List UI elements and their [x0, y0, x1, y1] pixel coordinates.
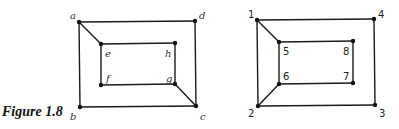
vertex-4 — [372, 17, 376, 21]
vertex-label-6: 6 — [283, 71, 289, 82]
vertex-c — [194, 104, 198, 108]
edge-1-5 — [257, 20, 279, 42]
vertex-7 — [351, 81, 355, 85]
edge-g-f — [101, 84, 175, 85]
vertex-a — [77, 20, 81, 24]
vertex-label-d: d — [199, 10, 205, 21]
vertex-label-a: a — [70, 10, 76, 21]
vertex-label-2: 2 — [248, 108, 254, 119]
vertex-label-4: 4 — [378, 9, 384, 20]
vertex-5 — [277, 40, 281, 44]
vertex-label-h: h — [165, 48, 171, 59]
edge-g-c — [175, 84, 196, 106]
vertex-label-f: f — [105, 73, 112, 84]
edge-d-c — [195, 21, 196, 106]
figure-caption: Figure 1.8 — [2, 104, 63, 120]
vertex-label-7: 7 — [343, 71, 349, 82]
vertex-8 — [351, 39, 355, 43]
vertex-label-1: 1 — [248, 9, 254, 20]
edge-2-1 — [257, 20, 258, 106]
vertex-label-e: e — [105, 48, 111, 59]
vertex-label-g: g — [166, 73, 172, 84]
edge-e-h — [101, 43, 175, 44]
edge-5-8 — [279, 41, 353, 42]
vertex-label-b: b — [70, 111, 76, 122]
vertex-b — [78, 105, 82, 109]
vertex-6 — [277, 82, 281, 86]
letter-graph: adehfgbc — [70, 10, 206, 122]
vertex-h — [173, 41, 177, 45]
edge-1-4 — [257, 19, 374, 20]
vertex-label-8: 8 — [343, 46, 349, 57]
vertex-g — [173, 82, 177, 86]
vertex-label-c: c — [200, 111, 206, 122]
edge-a-d — [79, 21, 195, 22]
edge-b-a — [79, 22, 80, 107]
vertex-label-3: 3 — [379, 108, 385, 119]
vertex-e — [99, 42, 103, 46]
vertex-2 — [256, 104, 260, 108]
vertex-label-5: 5 — [283, 46, 289, 57]
edge-4-3 — [374, 19, 375, 105]
vertex-f — [99, 83, 103, 87]
edge-6-2 — [258, 84, 279, 106]
edge-7-6 — [279, 83, 353, 84]
edge-c-b — [80, 106, 196, 107]
vertex-3 — [373, 103, 377, 107]
vertex-1 — [255, 18, 259, 22]
number-graph: 14586723 — [248, 9, 385, 119]
vertex-d — [193, 19, 197, 23]
edge-3-2 — [258, 105, 375, 106]
edge-a-e — [79, 22, 101, 44]
